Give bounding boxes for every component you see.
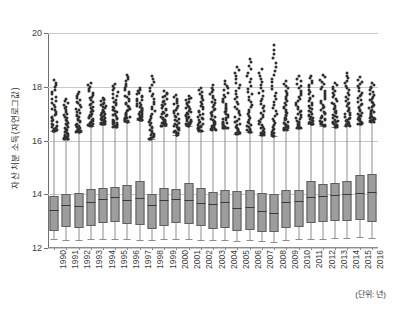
box-2004[interactable]: [221, 190, 230, 227]
outlier-max-point: [199, 87, 202, 90]
outlier-point: [250, 61, 253, 64]
outlier-point: [270, 81, 273, 84]
y-axis-label-container: 자산 처분 소득(자연로그값): [6, 30, 22, 245]
outlier-point: [234, 105, 237, 108]
x-tick-label-2000: 2000: [180, 250, 190, 269]
box-2012[interactable]: [318, 184, 327, 222]
box-1993[interactable]: [86, 189, 95, 226]
box-1992[interactable]: [74, 193, 83, 228]
outlier-point: [153, 110, 156, 113]
median-2002: [196, 203, 205, 204]
box-2011[interactable]: [306, 181, 315, 223]
outlier-max-point: [346, 72, 349, 75]
outlier-point: [258, 92, 261, 95]
box-1995[interactable]: [111, 187, 120, 223]
box-2000[interactable]: [172, 189, 181, 223]
outlier-point: [234, 98, 237, 101]
outlier-point: [150, 84, 153, 87]
outlier-point: [247, 96, 250, 99]
outlier-point: [148, 87, 151, 90]
outlier-point: [116, 95, 119, 98]
outlier-max-point: [163, 89, 166, 92]
outlier-point: [177, 105, 180, 108]
outlier-point: [235, 90, 238, 93]
cap-low-2010: [295, 239, 302, 240]
box-group-2016: [366, 33, 378, 248]
x-tick-label-2011: 2011: [314, 250, 324, 268]
box-1996[interactable]: [123, 185, 132, 224]
box-2013[interactable]: [331, 183, 340, 221]
median-2005: [233, 208, 242, 209]
outlier-point: [91, 91, 94, 94]
outlier-point: [261, 97, 264, 100]
outlier-point: [165, 113, 168, 116]
outlier-max-point: [175, 93, 178, 96]
outlier-max-point: [65, 97, 68, 100]
box-group-2001: [182, 33, 194, 248]
box-1999[interactable]: [160, 188, 169, 226]
box-2016[interactable]: [367, 174, 376, 222]
outlier-point: [127, 120, 130, 123]
box-1998[interactable]: [147, 194, 156, 229]
outlier-point: [188, 100, 191, 103]
outlier-point: [258, 71, 261, 74]
outlier-point: [261, 80, 264, 83]
cap-low-2008: [271, 242, 278, 243]
outlier-point: [124, 94, 127, 97]
outlier-point: [251, 93, 254, 96]
box-2001[interactable]: [184, 183, 193, 224]
box-2009[interactable]: [282, 190, 291, 228]
x-tick-label-2016: 2016: [375, 250, 385, 269]
outlier-point: [323, 76, 326, 79]
outlier-max-point: [211, 84, 214, 87]
outlier-point: [331, 86, 334, 89]
median-2001: [184, 200, 193, 201]
box-2010[interactable]: [294, 190, 303, 227]
outlier-point: [263, 128, 266, 131]
outlier-point: [129, 115, 132, 118]
plot-frame: 1214161820: [48, 33, 378, 248]
box-1997[interactable]: [135, 181, 144, 225]
outlier-point: [300, 80, 303, 83]
outlier-max-point: [297, 75, 300, 78]
outlier-point: [373, 116, 376, 119]
outlier-point: [274, 110, 277, 113]
median-1996: [123, 200, 132, 201]
x-tick-mark-2012: [323, 248, 324, 250]
x-tick-label-1995: 1995: [119, 250, 129, 269]
box-2003[interactable]: [208, 192, 217, 229]
x-tick-label-2013: 2013: [339, 250, 349, 269]
box-2015[interactable]: [355, 175, 364, 219]
outlier-point: [239, 122, 242, 125]
outlier-point: [275, 112, 278, 115]
outlier-point: [250, 84, 253, 87]
x-tick-mark-1993: [91, 248, 92, 250]
median-2010: [294, 201, 303, 202]
box-group-2003: [207, 33, 219, 248]
outlier-point: [127, 90, 130, 93]
outlier-point: [237, 117, 240, 120]
median-2006: [245, 207, 254, 208]
box-group-1999: [158, 33, 170, 248]
box-1990[interactable]: [50, 196, 59, 231]
outlier-point: [226, 127, 229, 130]
box-1994[interactable]: [98, 188, 107, 224]
box-2006[interactable]: [245, 190, 254, 230]
box-group-2007: [256, 33, 268, 248]
x-tick-mark-2008: [274, 248, 275, 250]
box-2002[interactable]: [196, 188, 205, 226]
box-2005[interactable]: [233, 191, 242, 231]
outlier-point: [275, 98, 278, 101]
box-group-1992: [72, 33, 84, 248]
box-2014[interactable]: [343, 181, 352, 221]
box-1991[interactable]: [62, 194, 71, 227]
outlier-point: [51, 101, 54, 104]
cap-low-2013: [332, 238, 339, 239]
box-group-2015: [354, 33, 366, 248]
box-2007[interactable]: [257, 193, 266, 232]
outlier-point: [249, 78, 252, 81]
outlier-point: [226, 91, 229, 94]
cap-low-2006: [246, 240, 253, 241]
median-2008: [270, 213, 279, 214]
outlier-max-point: [150, 75, 153, 78]
